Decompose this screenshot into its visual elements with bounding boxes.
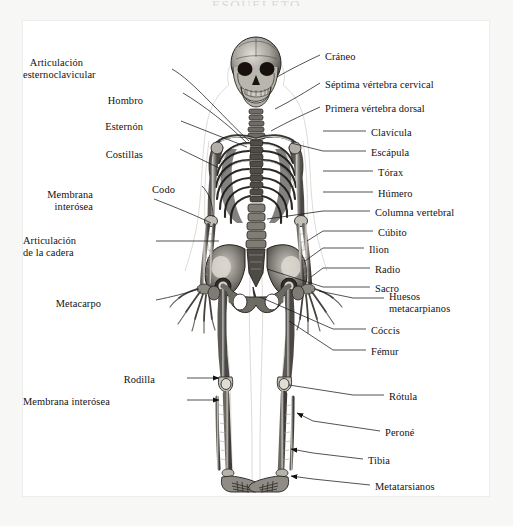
label-ilion: Ilion	[369, 244, 389, 256]
label-articulacion-esternoclavicular: Articulaciónesternoclavicular	[23, 57, 83, 80]
label-line: interósea	[23, 201, 93, 213]
label-line: Membrana interósea	[23, 396, 95, 408]
label-line: Húmero	[378, 188, 413, 200]
label-septima-vertebra-cervical: Séptima vértebra cervical	[325, 79, 434, 91]
label-line: Cúbito	[378, 227, 407, 239]
label-articulacion-de-la-cadera: Articulaciónde la cadera	[23, 235, 73, 258]
label-line: Articulación	[23, 235, 73, 247]
label-line: Cóccis	[371, 325, 400, 337]
label-line: Fémur	[371, 346, 399, 358]
label-tibia: Tibia	[368, 455, 390, 467]
label-line: Metacarpo	[23, 298, 101, 310]
label-perone: Peroné	[385, 427, 414, 439]
label-membrana-interosea-pierna: Membrana interósea	[23, 396, 95, 408]
label-line: Tórax	[378, 167, 403, 179]
label-line: de la cadera	[23, 247, 73, 259]
label-codo: Codo	[23, 184, 175, 196]
label-torax: Tórax	[378, 167, 403, 179]
label-huesos-metacarpianos: Huesosmetacarpianos	[389, 291, 450, 314]
label-line: Tibia	[368, 455, 390, 467]
label-line: Codo	[23, 184, 175, 196]
label-metacarpo: Metacarpo	[23, 298, 101, 310]
label-line: Peroné	[385, 427, 414, 439]
label-metatarsianos: Metatarsianos	[375, 481, 435, 493]
label-line: Rodilla	[23, 374, 155, 386]
label-rodilla: Rodilla	[23, 374, 155, 386]
skeleton-illustration	[23, 21, 489, 496]
label-femur: Fémur	[371, 346, 399, 358]
label-humero: Húmero	[378, 188, 413, 200]
label-line: Columna vertebral	[375, 207, 454, 219]
label-costillas: Costillas	[23, 149, 143, 161]
page-title: ESQUELETO	[0, 0, 513, 6]
label-line: Primera vértebra dorsal	[325, 103, 425, 115]
label-line: Ilion	[369, 244, 389, 256]
label-line: Costillas	[23, 149, 143, 161]
label-clavicula: Clavícula	[371, 127, 412, 139]
label-hombro: Hombro	[23, 95, 143, 107]
label-line: Hombro	[23, 95, 143, 107]
label-line: Cráneo	[325, 51, 356, 63]
label-line: Esternón	[23, 121, 143, 133]
label-line: Articulación	[23, 57, 83, 69]
label-line: Huesos	[389, 291, 450, 303]
label-line: metacarpianos	[389, 303, 450, 315]
label-line: Radio	[375, 264, 400, 276]
label-line: Clavícula	[371, 127, 412, 139]
label-cubito: Cúbito	[378, 227, 407, 239]
label-line: esternoclavicular	[23, 69, 83, 81]
label-line: Séptima vértebra cervical	[325, 79, 434, 91]
label-radio: Radio	[375, 264, 400, 276]
label-line: Metatarsianos	[375, 481, 435, 493]
label-line: Escápula	[371, 147, 409, 159]
label-columna-vertebral: Columna vertebral	[375, 207, 454, 219]
label-rotula: Rótula	[389, 391, 417, 403]
label-line: Rótula	[389, 391, 417, 403]
illustration-plate: ArticulaciónesternoclavicularHombroEster…	[22, 20, 490, 497]
label-coccis: Cóccis	[371, 325, 400, 337]
label-esternon: Esternón	[23, 121, 143, 133]
label-escapula: Escápula	[371, 147, 409, 159]
label-craneo: Cráneo	[325, 51, 356, 63]
label-primera-vertebra-dorsal: Primera vértebra dorsal	[325, 103, 425, 115]
